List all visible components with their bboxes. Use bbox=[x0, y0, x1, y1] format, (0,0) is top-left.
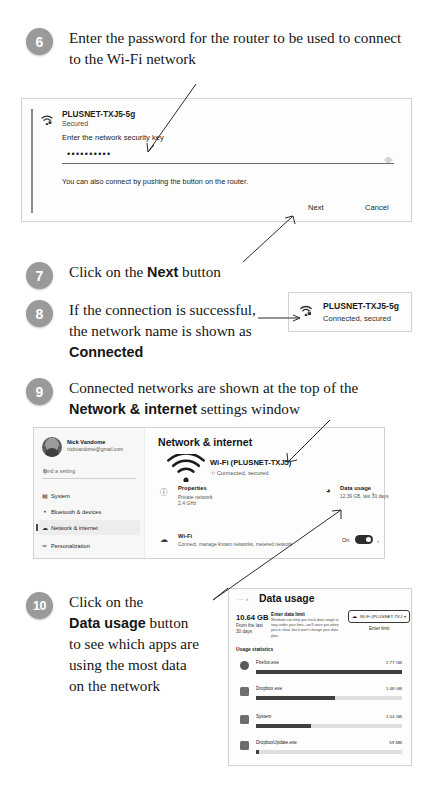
data-limit-title: Enter data limit bbox=[271, 612, 305, 617]
step-6: 6 Enter the password for the router to b… bbox=[26, 28, 406, 70]
sidebar-item-personalization[interactable]: ✑ Personalization bbox=[38, 538, 140, 553]
wifi-password-dialog: PLUSNET-TXJ5-5g Secured Enter the networ… bbox=[21, 98, 412, 222]
connected-network-chip: PLUSNET-TXJ5-5g Connected, secured bbox=[288, 292, 412, 332]
wifi-secured-icon bbox=[298, 302, 314, 320]
data-usage-subtitle: 12.39 GB, last 30 days bbox=[340, 494, 389, 499]
usage-bar bbox=[256, 750, 402, 754]
step-10: 10 Click on the Data usage button to see… bbox=[26, 592, 216, 697]
app-usage-value: 1.04 GB bbox=[386, 714, 402, 719]
wifi-toggle-label: On bbox=[342, 537, 349, 543]
app-name: Firefox.exe bbox=[256, 660, 279, 665]
page-title: Network & internet bbox=[158, 436, 252, 448]
enter-limit-button[interactable]: Enter limit bbox=[369, 626, 389, 631]
step-6-text: Enter the password for the router to be … bbox=[69, 28, 406, 70]
usage-row[interactable]: Dropbox.exe 1.48 GB bbox=[236, 685, 406, 709]
dropbox-icon bbox=[240, 687, 249, 696]
wifi-settings-row[interactable]: ☁ Wi-Fi Connect, manage known networks, … bbox=[158, 532, 386, 552]
step-10-line-3: to see which apps are bbox=[69, 634, 199, 655]
search-icon: ⚲ bbox=[43, 469, 134, 475]
sidebar-item-label: Bluetooth & devices bbox=[51, 509, 101, 515]
dialog-ssid: PLUSNET-TXJ5-5g bbox=[62, 109, 135, 119]
wifi-toggle[interactable] bbox=[355, 535, 373, 544]
sidebar-item-network-internet[interactable]: ☁ Network & internet bbox=[38, 520, 140, 535]
chip-ssid: PLUSNET-TXJ5-5g bbox=[323, 301, 399, 311]
next-button[interactable]: Next bbox=[308, 203, 324, 212]
step-number-badge: 7 bbox=[26, 262, 53, 289]
step-9-text: Connected networks are shown at the top … bbox=[69, 378, 406, 420]
step-number-badge: 8 bbox=[26, 300, 53, 327]
settings-window: Nick Vandome nickvandome@gmail.com Find … bbox=[33, 427, 385, 559]
properties-line-2: 2.4 GHz bbox=[178, 500, 196, 506]
chip-status: Connected, secured bbox=[323, 314, 391, 323]
bluetooth-icon: ᛭ bbox=[38, 508, 51, 515]
sidebar-item-bluetooth-devices[interactable]: ᛭ Bluetooth & devices bbox=[38, 504, 140, 519]
dialog-prompt: Enter the network security key bbox=[62, 133, 164, 142]
step-10-line-4: using the most data bbox=[69, 655, 199, 676]
properties-title: Properties bbox=[178, 485, 207, 491]
usage-period-line-1: From the last bbox=[236, 623, 263, 628]
step-7-bold: Next bbox=[147, 264, 178, 280]
firefox-icon bbox=[240, 661, 249, 670]
wifi-secured-icon bbox=[40, 111, 54, 129]
settings-content: Network & internet Wi-Fi (PLUSNET-TXJ5) … bbox=[144, 428, 384, 558]
usage-row[interactable]: Firefox.exe 2.77 GB bbox=[236, 659, 406, 683]
dialog-hint: You can also connect by pushing the butt… bbox=[62, 177, 248, 186]
usage-bar-fill bbox=[256, 724, 311, 728]
step-8-text: If the connection is successful, the net… bbox=[69, 300, 256, 363]
book-page: 6 Enter the password for the router to b… bbox=[0, 0, 434, 787]
usage-bar-fill bbox=[256, 670, 402, 674]
dropbox-icon bbox=[240, 741, 249, 750]
app-usage-value: 59 MB bbox=[389, 740, 402, 745]
current-network-status: ☉ Connected, secured bbox=[210, 470, 269, 476]
chevron-right-icon[interactable]: › bbox=[377, 538, 379, 544]
system-icon bbox=[240, 715, 249, 724]
wifi-icon: ☁ bbox=[38, 524, 51, 532]
usage-bar bbox=[256, 724, 402, 728]
sidebar-item-label: Personalization bbox=[51, 543, 90, 549]
app-name: Dropbox.exe bbox=[256, 686, 282, 691]
step-number-badge: 10 bbox=[26, 592, 53, 619]
search-input[interactable]: Find a setting ⚲ bbox=[42, 466, 136, 479]
step-10-line-1: Click on the bbox=[69, 592, 199, 613]
step-9-pre: Connected networks are shown at the top … bbox=[69, 379, 358, 396]
step-number-badge: 9 bbox=[26, 378, 53, 405]
data-limit-description: Windows can help you track data usage to… bbox=[271, 618, 339, 639]
step-7-pre: Click on the bbox=[69, 263, 147, 280]
app-usage-value: 1.48 GB bbox=[386, 686, 402, 691]
chevron-right-icon[interactable]: › bbox=[372, 490, 374, 496]
info-icon: ⓘ bbox=[160, 486, 167, 497]
wifi-row-subtitle: Connect, manage known networks, metered … bbox=[178, 542, 292, 547]
step-7-post: button bbox=[178, 263, 221, 280]
current-network-status-text: Connected, secured bbox=[217, 470, 269, 476]
step-10-line-5: on the network bbox=[69, 676, 199, 697]
password-input[interactable]: •••••••••• bbox=[67, 149, 112, 159]
sidebar-item-system[interactable]: ▤ System bbox=[38, 488, 140, 503]
brush-icon: ✑ bbox=[38, 542, 51, 550]
password-input-underline bbox=[62, 163, 394, 164]
data-usage-window: ··· › Data usage 10.64 GB From the last … bbox=[228, 588, 412, 766]
properties-line-1: Private network bbox=[178, 494, 212, 500]
adapter-dropdown-value: Wi-Fi (PLUSNET-TXJ bbox=[360, 614, 402, 619]
reveal-password-icon[interactable] bbox=[384, 149, 393, 167]
chevron-down-icon: ▾ bbox=[404, 614, 406, 619]
cancel-button[interactable]: Cancel bbox=[365, 203, 389, 212]
account-email: nickvandome@gmail.com bbox=[67, 447, 123, 452]
total-usage-value: 10.64 GB bbox=[236, 613, 269, 622]
dialog-accent-bar bbox=[31, 109, 33, 213]
step-10-bold: Data usage bbox=[69, 615, 146, 631]
usage-row[interactable]: System 1.04 GB bbox=[236, 713, 406, 737]
step-9-bold: Network & internet bbox=[69, 401, 197, 417]
arrow-line bbox=[243, 216, 293, 262]
sidebar-item-label: Network & internet bbox=[51, 525, 98, 531]
adapter-dropdown[interactable]: ☁ Wi-Fi (PLUSNET-TXJ ▾ bbox=[348, 610, 410, 623]
app-name: DropboxUpdate.exe bbox=[256, 740, 297, 745]
step-9-post: settings window bbox=[197, 400, 300, 417]
step-8-line-2: the network name is shown as bbox=[69, 321, 256, 342]
app-usage-value: 2.77 GB bbox=[386, 660, 402, 665]
dialog-security-state: Secured bbox=[62, 120, 88, 127]
breadcrumb[interactable]: ··· › bbox=[237, 596, 249, 602]
usage-statistics-header: Usage statistics bbox=[236, 647, 273, 652]
step-10-text: Click on the Data usage button to see wh… bbox=[69, 592, 199, 697]
usage-bar-fill bbox=[256, 696, 335, 700]
usage-row[interactable]: DropboxUpdate.exe 59 MB bbox=[236, 739, 406, 763]
